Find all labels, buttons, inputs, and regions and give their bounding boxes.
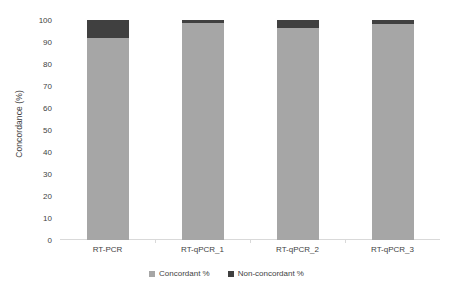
y-axis-tick: 20 — [43, 192, 52, 201]
bar-stack[interactable] — [372, 20, 414, 240]
y-axis-tick: 60 — [43, 104, 52, 113]
y-axis-tick: 100 — [39, 16, 52, 25]
y-axis-tick: 40 — [43, 148, 52, 157]
x-axis-category-label: RT-qPCR_2 — [250, 245, 345, 254]
bar-segment-concordant[interactable] — [87, 38, 129, 240]
legend-swatch-icon — [149, 271, 155, 277]
x-axis-category-label: RT-qPCR_3 — [345, 245, 440, 254]
plot-area — [60, 20, 440, 240]
legend-item[interactable]: Concordant % — [149, 269, 210, 278]
y-axis-tick: 30 — [43, 170, 52, 179]
x-axis-category-label: RT-qPCR_1 — [155, 245, 250, 254]
y-axis-title: Concordance (%) — [8, 0, 30, 248]
x-axis-tick-mark — [250, 240, 251, 243]
bar-segment-non-concordant[interactable] — [87, 20, 129, 38]
y-axis-tick: 90 — [43, 38, 52, 47]
legend-swatch-icon — [228, 271, 234, 277]
y-axis-tick: 70 — [43, 82, 52, 91]
bar-stack[interactable] — [182, 20, 224, 240]
x-axis-category-labels: RT-PCRRT-qPCR_1RT-qPCR_2RT-qPCR_3 — [60, 245, 440, 261]
legend-item[interactable]: Non-concordant % — [228, 269, 304, 278]
bar-group[interactable] — [60, 20, 155, 240]
y-axis-title-label: Concordance (%) — [14, 90, 24, 158]
bar-segment-concordant[interactable] — [277, 28, 319, 240]
bar-segment-non-concordant[interactable] — [277, 20, 319, 28]
x-axis-tick-mark — [155, 240, 156, 243]
bar-group[interactable] — [155, 20, 250, 240]
bar-group[interactable] — [250, 20, 345, 240]
bar-segment-concordant[interactable] — [372, 24, 414, 240]
y-axis-tick: 80 — [43, 60, 52, 69]
bar-group[interactable] — [345, 20, 440, 240]
y-axis-tick-labels: 0102030405060708090100 — [30, 14, 56, 240]
x-axis-tick-mark — [345, 240, 346, 243]
y-axis-tick: 10 — [43, 214, 52, 223]
y-axis-tick: 50 — [43, 126, 52, 135]
y-axis-tick: 0 — [48, 236, 52, 245]
legend-label: Concordant % — [159, 269, 210, 278]
bar-stack[interactable] — [277, 20, 319, 240]
legend-label: Non-concordant % — [238, 269, 304, 278]
concordance-stacked-bar-chart: Concordance (%) 0102030405060708090100 R… — [0, 0, 453, 294]
bar-stack[interactable] — [87, 20, 129, 240]
x-axis-category-label: RT-PCR — [60, 245, 155, 254]
bar-segment-concordant[interactable] — [182, 23, 224, 240]
chart-legend: Concordant %Non-concordant % — [0, 269, 453, 278]
